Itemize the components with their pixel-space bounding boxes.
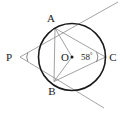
geometry-figure: A B C P O 58°	[0, 0, 123, 114]
label-point-a: A	[47, 12, 55, 24]
angle-arc-p	[27, 53, 28, 62]
geometry-canvas: A B C P O 58°	[0, 0, 123, 114]
label-angle-value: 58°	[81, 52, 93, 62]
tangent-line-pa	[20, 2, 118, 57]
angle-arc-c	[97, 52, 98, 62]
center-point-dot	[71, 56, 74, 59]
label-point-c: C	[109, 51, 116, 63]
label-center-o: O	[61, 51, 69, 63]
tangent-line-pb	[20, 57, 104, 108]
label-point-p: P	[6, 51, 12, 63]
segment-ab	[54, 28, 55, 81]
label-point-b: B	[48, 85, 55, 97]
degree-symbol: °	[90, 52, 93, 58]
